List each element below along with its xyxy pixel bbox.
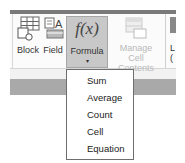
group-separator (165, 14, 166, 68)
chevron-down-icon: ▾ (67, 58, 107, 64)
svg-text:A: A (55, 18, 63, 30)
field-label: Field (42, 45, 64, 55)
menu-item-cell[interactable]: Cell (87, 126, 103, 138)
partial-button-icon (170, 17, 176, 33)
formula-label: Formula (67, 46, 107, 56)
manage-cell-contents-button[interactable]: Manage Cell Contents (110, 16, 162, 68)
partial-label-2: ( (170, 53, 173, 63)
formula-dropdown-menu: Sum Average Count Cell Equation (66, 69, 134, 160)
ribbon-left-border (12, 14, 13, 69)
formula-button[interactable]: f(x) Formula ▾ (66, 16, 108, 68)
block-button[interactable]: Block (14, 16, 42, 68)
field-icon: A (43, 16, 65, 42)
menu-item-sum[interactable]: Sum (87, 75, 107, 87)
block-label: Block (14, 45, 42, 55)
manage-label-1: Manage (110, 43, 162, 53)
menu-item-average[interactable]: Average (87, 92, 122, 104)
manage-cell-contents-icon (124, 17, 148, 41)
menu-item-count[interactable]: Count (87, 109, 112, 121)
block-table-icon (17, 16, 41, 42)
field-button[interactable]: A Field (42, 16, 64, 68)
menu-item-equation[interactable]: Equation (87, 143, 125, 155)
partial-label-1: L (170, 43, 175, 53)
formula-fx-icon: f(x) (67, 19, 107, 39)
